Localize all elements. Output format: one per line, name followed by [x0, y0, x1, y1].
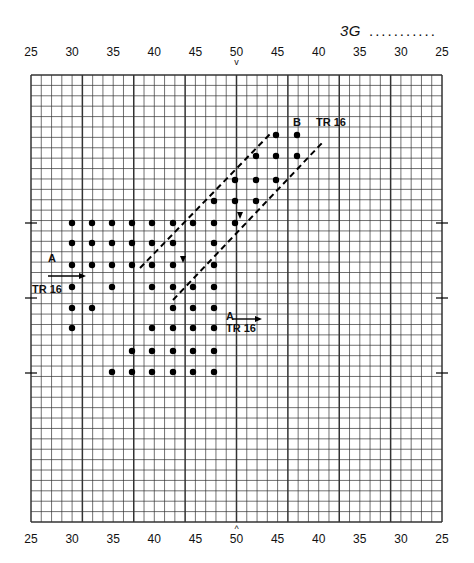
- dot-marker: [211, 240, 217, 246]
- dot-marker: [211, 198, 217, 204]
- tr-left-label: TR 16: [32, 283, 62, 295]
- dot-marker: [190, 305, 196, 311]
- dot-marker: [170, 325, 176, 331]
- dot-marker: [69, 325, 75, 331]
- dot-marker: [211, 220, 217, 226]
- dot-marker: [149, 369, 155, 375]
- dot-marker: [253, 198, 259, 204]
- dot-marker: [170, 262, 176, 268]
- dot-marker: [69, 305, 75, 311]
- dot-marker: [211, 262, 217, 268]
- dot-marker: [69, 240, 75, 246]
- dot-marker: [273, 153, 279, 159]
- dot-marker: [109, 240, 115, 246]
- dot-marker: [109, 220, 115, 226]
- dot-marker: [109, 369, 115, 375]
- dot-marker: [170, 284, 176, 290]
- dot-marker: [89, 305, 95, 311]
- dot-marker: [170, 240, 176, 246]
- dot-marker: [109, 262, 115, 268]
- dot-marker: [232, 177, 238, 183]
- dot-marker: [109, 284, 115, 290]
- dot-marker: [149, 262, 155, 268]
- dot-marker: [211, 305, 217, 311]
- dot-marker: [211, 369, 217, 375]
- dot-marker: [190, 284, 196, 290]
- down-arrow-icon: [237, 212, 243, 219]
- dot-marker: [211, 348, 217, 354]
- dot-marker: [129, 240, 135, 246]
- dot-marker: [149, 348, 155, 354]
- dot-marker: [170, 305, 176, 311]
- dot-marker: [89, 220, 95, 226]
- dot-marker: [129, 262, 135, 268]
- dot-marker: [190, 348, 196, 354]
- arrow-head-icon: [255, 316, 262, 322]
- dot-marker: [211, 284, 217, 290]
- dot-marker: [149, 240, 155, 246]
- dot-marker: [129, 369, 135, 375]
- dot-marker: [190, 369, 196, 375]
- dot-marker: [294, 132, 300, 138]
- section-a-left-label: A: [48, 252, 56, 264]
- dot-marker: [170, 369, 176, 375]
- dot-marker: [170, 348, 176, 354]
- dot-marker: [232, 220, 238, 226]
- dot-marker: [149, 325, 155, 331]
- dot-marker: [69, 262, 75, 268]
- dot-marker: [232, 198, 238, 204]
- dot-marker: [149, 220, 155, 226]
- dot-marker: [69, 284, 75, 290]
- tr-right-label: TR 16: [226, 322, 256, 334]
- dot-marker: [253, 153, 259, 159]
- dot-marker: [273, 177, 279, 183]
- dot-marker: [211, 325, 217, 331]
- dot-marker: [69, 220, 75, 226]
- dot-marker: [149, 284, 155, 290]
- tr-b-label: TR 16: [316, 116, 346, 128]
- dot-marker: [129, 348, 135, 354]
- dot-marker: [170, 220, 176, 226]
- dot-marker: [273, 132, 279, 138]
- dot-marker: [129, 220, 135, 226]
- dot-marker: [89, 240, 95, 246]
- section-a-right-label: A: [226, 310, 234, 322]
- dot-marker: [253, 177, 259, 183]
- section-b-label: B: [293, 116, 301, 128]
- dot-marker: [89, 262, 95, 268]
- dot-marker: [294, 153, 300, 159]
- grid-diagram: [0, 0, 474, 563]
- dot-marker: [190, 325, 196, 331]
- dot-marker: [190, 220, 196, 226]
